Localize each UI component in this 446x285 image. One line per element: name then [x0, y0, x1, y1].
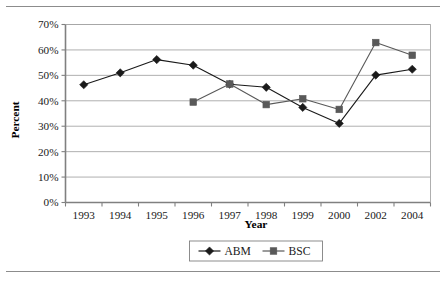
legend-label-bsc: BSC	[289, 245, 311, 258]
grid-lines	[66, 25, 431, 178]
y-tick-label: 30%	[38, 120, 59, 132]
line-chart: 0%10%20%30%40%50%60%70% 1993199419951996…	[0, 10, 446, 270]
x-tick-label: 1999	[292, 209, 315, 221]
y-tick-label: 40%	[38, 95, 59, 107]
data-point-bsc-1997	[226, 81, 233, 88]
x-tick-label: 1995	[146, 209, 169, 221]
y-tick-label: 20%	[38, 146, 59, 158]
data-point-bsc-2004	[409, 52, 416, 59]
x-tick-label: 1993	[73, 209, 96, 221]
chart-legend: ABMBSC	[190, 241, 323, 261]
data-point-bsc-1998	[263, 101, 270, 108]
x-tick-label: 1997	[219, 209, 242, 221]
x-tick-label: 2002	[365, 209, 387, 221]
data-point-abm-2002	[372, 71, 380, 79]
data-point-abm-1998	[262, 83, 270, 91]
x-tick-label: 2004	[401, 209, 424, 221]
y-tick-label: 10%	[38, 171, 59, 183]
top-divider-rule	[6, 6, 440, 7]
axis-lines	[66, 25, 431, 203]
x-tick-label: 1994	[109, 209, 132, 221]
data-point-bsc-2002	[372, 39, 379, 46]
x-tick-label: 1996	[182, 209, 205, 221]
series-markers	[80, 39, 417, 127]
data-point-abm-1999	[299, 103, 307, 111]
chart-figure: 0%10%20%30%40%50%60%70% 1993199419951996…	[0, 0, 446, 285]
legend-label-abm: ABM	[225, 245, 251, 258]
data-point-bsc-2000	[336, 106, 343, 113]
x-tick-label: 2000	[328, 209, 351, 221]
y-tick-label: 70%	[38, 18, 59, 30]
x-axis-title: Year	[245, 218, 268, 230]
data-point-abm-1996	[189, 61, 197, 69]
y-axis-title: Percent	[9, 101, 21, 138]
data-point-abm-2004	[408, 65, 416, 73]
series-line-abm	[84, 60, 413, 124]
y-axis-tick-labels: 0%10%20%30%40%50%60%70%	[38, 18, 59, 208]
series-lines	[84, 43, 413, 124]
data-point-bsc-1999	[299, 95, 306, 102]
data-point-bsc-1996	[190, 99, 197, 106]
y-tick-label: 0%	[44, 196, 59, 208]
bottom-divider-rule	[6, 271, 440, 272]
y-tick-label: 50%	[38, 69, 59, 81]
data-point-abm-1993	[80, 81, 88, 89]
legend-marker-bsc-icon	[270, 248, 277, 255]
data-point-abm-1995	[153, 55, 161, 63]
y-tick-label: 60%	[38, 44, 59, 56]
